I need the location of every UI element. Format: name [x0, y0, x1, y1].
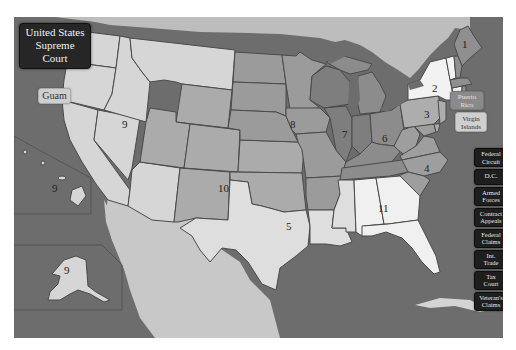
state-alaska[interactable] [48, 256, 110, 302]
circuit-map: 1 2 3 4 5 6 7 8 9 9 9 10 11 United State… [14, 17, 503, 338]
court-label-line: Contract [475, 210, 503, 218]
contract-appeals-button[interactable]: Contract Appeals [474, 208, 503, 227]
dc-circuit-button[interactable]: D.C. [474, 169, 503, 185]
court-label-line: Federal [475, 150, 503, 158]
virgin-islands-line-2: Islands [456, 123, 486, 131]
international-trade-button[interactable]: Int. Trade [474, 250, 503, 269]
state-massachusetts[interactable] [450, 78, 472, 88]
court-label-line: Circuit [475, 158, 503, 166]
federal-claims-button[interactable]: Federal Claims [474, 229, 503, 248]
court-label-line: Claims [475, 238, 503, 246]
state-colorado[interactable] [184, 124, 240, 172]
state-hawaii-oahu[interactable] [41, 161, 45, 165]
court-label-line: Int. [475, 252, 503, 260]
court-label-line: Claims [475, 301, 503, 309]
court-label-line: Trade [475, 259, 503, 267]
state-hawaii-kauai[interactable] [23, 150, 27, 154]
state-pennsylvania[interactable] [400, 96, 442, 128]
title-line-2: Supreme Court [22, 39, 88, 65]
court-label-line: Veteran's [475, 294, 503, 302]
circuit-11[interactable] [354, 176, 440, 274]
circuit-9-alaska[interactable] [48, 256, 110, 302]
state-wyoming[interactable] [176, 84, 232, 128]
state-north-dakota[interactable] [233, 52, 286, 84]
armed-forces-button[interactable]: Armed Forces [474, 187, 503, 206]
state-hawaii-maui[interactable] [58, 176, 66, 180]
guam-button[interactable]: Guam [38, 88, 71, 104]
court-label-line: Appeals [475, 217, 503, 225]
federal-circuit-button[interactable]: Federal Circuit [474, 148, 503, 167]
virgin-islands-button[interactable]: Virgin Islands [455, 112, 487, 132]
virgin-islands-line-1: Virgin [456, 115, 486, 123]
puerto-rico-button[interactable]: Puerto Rico [450, 91, 484, 110]
state-new-jersey[interactable] [438, 100, 446, 124]
state-new-mexico[interactable] [174, 168, 230, 222]
puerto-rico-line-1: Puerto [451, 93, 483, 101]
court-label-line: Court [475, 280, 503, 288]
circuit-1[interactable] [450, 26, 482, 94]
specialized-courts-list: Federal Circuit D.C. Armed Forces Contra… [474, 148, 503, 311]
state-iowa[interactable] [286, 108, 330, 134]
puerto-rico-line-2: Rico [451, 101, 483, 109]
state-hawaii-big-island[interactable] [70, 186, 86, 206]
court-label-line: D.C. [475, 173, 503, 181]
court-label-line: Federal [475, 231, 503, 239]
circuit-9-hawaii-label: 9 [52, 182, 58, 194]
court-label-line: Armed [475, 189, 503, 197]
court-label-line: Forces [475, 196, 503, 204]
veterans-claims-button[interactable]: Veteran's Claims [474, 292, 503, 311]
title-line-1: United States [22, 26, 88, 39]
court-label-line: Tax [475, 273, 503, 281]
state-florida[interactable] [362, 220, 440, 274]
supreme-court-button[interactable]: United States Supreme Court [19, 23, 91, 69]
tax-court-button[interactable]: Tax Court [474, 271, 503, 290]
state-kansas[interactable] [238, 140, 304, 173]
